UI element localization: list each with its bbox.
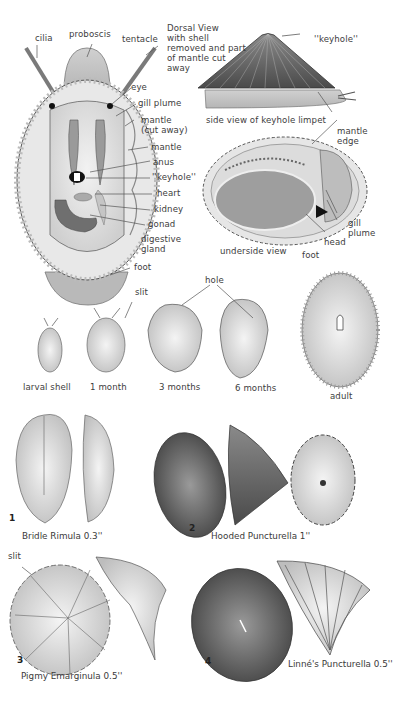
label-slit: slit [135, 287, 148, 297]
label-gill-plume: gill plume [138, 98, 181, 108]
species-4-number: 4 [205, 656, 211, 666]
label-tentacle: tentacle [122, 34, 158, 44]
label-foot: foot [134, 262, 151, 272]
underside-label-gill-plume: gill plume [348, 218, 375, 238]
species-4-drawing [179, 557, 370, 693]
label-anus: anus [153, 157, 174, 167]
label-digestive-gland: digestive gland [141, 234, 181, 254]
label-proboscis: proboscis [69, 29, 111, 39]
species-3-number: 3 [17, 655, 23, 665]
dorsal-view-caption: Dorsal View with shell removed and part … [167, 23, 246, 73]
stage-3-months: 3 months [159, 382, 200, 392]
species-3-slit-label: slit [8, 551, 21, 561]
species-1-number: 1 [9, 513, 15, 523]
stage-adult: adult [330, 391, 352, 401]
underside-view-caption: underside view [220, 246, 287, 256]
label-eye: eye [131, 82, 147, 92]
label-hole: hole [205, 275, 224, 285]
stage-1-month: 1 month [90, 382, 127, 392]
species-1-drawing [16, 414, 114, 523]
label-heart: heart [157, 188, 180, 198]
label-mantle: mantle [151, 142, 182, 152]
species-3-drawing [10, 557, 166, 675]
species-3-name: Pigmy Emarginula 0.5'' [21, 671, 122, 682]
label-keyhole: ''keyhole'' [152, 172, 196, 182]
species-4-name: Linné's Puncturella 0.5'' [288, 659, 393, 670]
species-2-drawing [145, 425, 355, 544]
stage-larval-shell: larval shell [23, 382, 71, 392]
side-view-caption: side view of keyhole limpet [206, 115, 326, 125]
underside-label-foot: foot [302, 250, 319, 260]
underside-label-head: head [324, 237, 346, 247]
species-2-name: Hooded Puncturella 1'' [211, 531, 310, 542]
side-label-keyhole: ''keyhole'' [314, 34, 358, 44]
label-mantle-edge: mantle edge [337, 126, 368, 146]
label-cilia: cilia [35, 33, 53, 43]
underside-view-drawing [203, 137, 367, 245]
species-1-name: Bridle Rimula 0.3'' [22, 531, 103, 542]
label-kidney: kidney [154, 204, 183, 214]
stage-6-months: 6 months [235, 383, 276, 393]
label-gonad: gonad [148, 219, 175, 229]
species-2-number: 2 [189, 523, 195, 533]
label-mantle-cut-away: mantle (cut away) [141, 115, 188, 135]
plate-illustrations [0, 0, 401, 707]
